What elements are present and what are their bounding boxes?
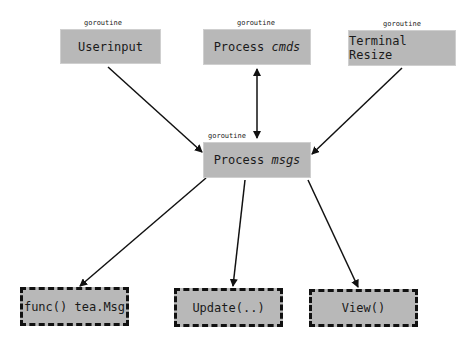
- node-view: View(): [309, 289, 418, 327]
- node-userinput: Userinput: [60, 29, 161, 64]
- node-process-msgs-prefix: Process: [214, 153, 272, 167]
- goroutine-tag-cmds: goroutine: [237, 19, 275, 27]
- node-terminal-resize: Terminal Resize: [348, 30, 456, 66]
- node-process-cmds-prefix: Process: [214, 40, 272, 54]
- goroutine-tag-msgs: goroutine: [208, 132, 246, 140]
- node-update-label: Update(..): [192, 301, 264, 315]
- node-update: Update(..): [174, 288, 283, 327]
- edge-resize-msgs: [312, 68, 402, 154]
- node-process-msgs-em: msgs: [271, 153, 300, 167]
- node-view-label: View(): [342, 301, 385, 315]
- edge-msgs-view: [308, 180, 358, 287]
- node-terminal-resize-label: Terminal Resize: [349, 34, 455, 62]
- edge-msgs-func: [80, 178, 206, 286]
- goroutine-tag-userinput: goroutine: [84, 19, 122, 27]
- node-process-cmds: Process cmds: [203, 29, 311, 65]
- edge-userinput-msgs: [108, 67, 202, 152]
- node-process-cmds-em: cmds: [271, 40, 300, 54]
- goroutine-tag-resize: goroutine: [383, 20, 421, 28]
- edge-msgs-update: [233, 180, 245, 286]
- node-process-msgs: Process msgs: [203, 142, 311, 178]
- node-func-tea-msg-label: func() tea.Msg: [24, 300, 125, 314]
- node-func-tea-msg: func() tea.Msg: [20, 287, 129, 326]
- node-userinput-label: Userinput: [78, 40, 143, 54]
